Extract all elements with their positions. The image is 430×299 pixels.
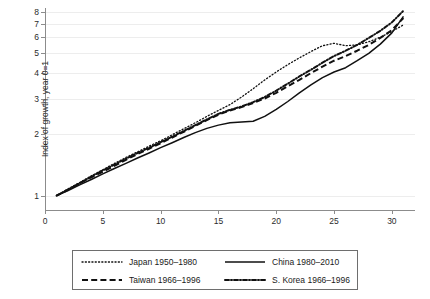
legend-swatch-solid-icon — [224, 257, 266, 267]
x-tick-label-10: 10 — [149, 216, 173, 226]
y-tick-label-7: 7 — [21, 20, 39, 28]
chart-legend: Japan 1950–1980China 1980–2010Taiwan 196… — [72, 250, 358, 290]
data-series-lines — [45, 8, 415, 210]
y-tick-label-2: 2 — [21, 130, 39, 138]
x-tick-label-15: 15 — [206, 216, 230, 226]
series-line-2 — [57, 18, 404, 196]
legend-item-1[interactable]: China 1980–2010 — [216, 257, 359, 267]
legend-row: Taiwan 1966–1996S. Korea 1966–1996 — [73, 271, 359, 289]
legend-label-1: China 1980–2010 — [272, 257, 339, 267]
x-tick-label-25: 25 — [322, 216, 346, 226]
y-tick-label-8: 8 — [21, 8, 39, 16]
plot-area: 12345678 051015202530 Index of growth, y… — [45, 8, 415, 210]
y-tick-label-1: 1 — [21, 192, 39, 200]
x-axis-line — [45, 210, 415, 211]
legend-label-3: S. Korea 1966–1996 — [272, 275, 350, 285]
legend-swatch-dashed-icon — [81, 275, 123, 285]
legend-item-3[interactable]: S. Korea 1966–1996 — [216, 275, 359, 285]
chart-figure: 12345678 051015202530 Index of growth, y… — [0, 0, 430, 299]
legend-item-2[interactable]: Taiwan 1966–1996 — [73, 275, 216, 285]
legend-item-0[interactable]: Japan 1950–1980 — [73, 257, 216, 267]
legend-label-0: Japan 1950–1980 — [129, 257, 197, 267]
legend-swatch-dotted-icon — [81, 257, 123, 267]
x-tick-label-5: 5 — [91, 216, 115, 226]
legend-label-2: Taiwan 1966–1996 — [129, 275, 200, 285]
x-tick-label-30: 30 — [380, 216, 404, 226]
legend-swatch-dash-dot-icon — [224, 275, 266, 285]
legend-row: Japan 1950–1980China 1980–2010 — [73, 253, 359, 271]
y-tick-label-4: 4 — [21, 69, 39, 77]
y-tick-label-6: 6 — [21, 33, 39, 41]
x-tick-label-20: 20 — [264, 216, 288, 226]
y-tick-label-5: 5 — [21, 49, 39, 57]
y-tick-label-3: 3 — [21, 95, 39, 103]
